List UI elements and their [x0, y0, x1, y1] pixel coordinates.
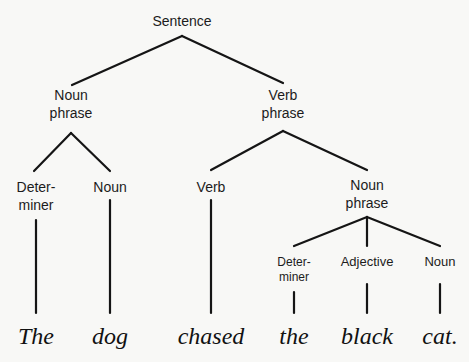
node-label-np1: phrase [50, 105, 93, 121]
node-label-det1: Deter- [17, 179, 56, 195]
tree-edge [72, 36, 182, 85]
node-label-det2: miner [279, 270, 309, 284]
sentence-word: cat. [422, 323, 457, 349]
node-label-v: Verb [197, 179, 226, 195]
node-label-n1: Noun [93, 179, 126, 195]
tree-edges [34, 36, 440, 313]
tree-edge [283, 131, 367, 170]
tree-edge [294, 217, 367, 246]
tree-edge [182, 36, 283, 83]
node-label-det1: miner [18, 197, 53, 213]
sentence-words: Thedogchasedtheblackcat. [18, 323, 458, 349]
node-label-det2: Deter- [277, 255, 310, 269]
sentence-word: chased [178, 323, 246, 349]
parse-tree-diagram: SentenceNounphraseVerbphraseDeter-minerN… [0, 0, 469, 362]
node-label-np1: Noun [54, 87, 87, 103]
node-label-np2: Noun [350, 177, 383, 193]
tree-nodes: SentenceNounphraseVerbphraseDeter-minerN… [17, 13, 456, 284]
node-label-n2: Noun [424, 254, 455, 269]
node-label-vp: Verb [269, 87, 298, 103]
sentence-word: the [279, 323, 309, 349]
sentence-word: dog [92, 323, 128, 349]
node-label-s: Sentence [152, 13, 211, 29]
node-label-vp: phrase [262, 105, 305, 121]
tree-edge [34, 133, 71, 171]
node-label-np2: phrase [346, 195, 389, 211]
tree-edge [367, 217, 440, 246]
tree-edge [211, 131, 283, 170]
sentence-word: The [18, 323, 54, 349]
tree-edge [71, 133, 110, 171]
node-label-adj: Adjective [341, 254, 394, 269]
sentence-word: black [341, 323, 393, 349]
